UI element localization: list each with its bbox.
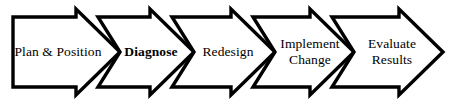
stage-label-implement-change: Implement Change bbox=[269, 17, 351, 87]
stage-label-plan-position: Plan & Position bbox=[13, 17, 103, 87]
stage-label-redesign: Redesign bbox=[189, 17, 267, 87]
process-flow-diagram: Plan & Position Diagnose Redesign Implem… bbox=[0, 0, 455, 104]
stage-label-evaluate-results: Evaluate Results bbox=[350, 17, 434, 87]
stage-label-diagnose: Diagnose bbox=[112, 17, 190, 87]
